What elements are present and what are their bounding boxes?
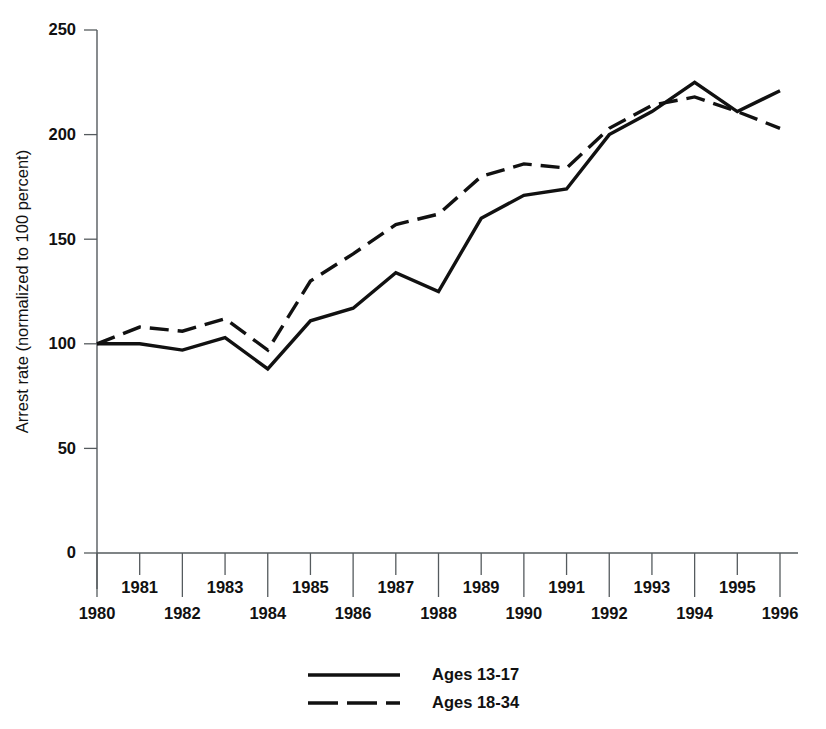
x-tick-label: 1986	[335, 604, 372, 622]
y-tick-label: 150	[48, 230, 76, 248]
y-tick-label: 250	[48, 20, 76, 38]
x-tick-label: 1991	[548, 578, 585, 596]
y-tick-label: 0	[67, 543, 76, 561]
x-tick-label: 1984	[249, 604, 287, 622]
x-tick-label: 1992	[591, 604, 628, 622]
chart-legend: Ages 13-17Ages 18-34	[308, 665, 520, 711]
series-line-1	[97, 82, 780, 369]
x-tick-label: 1994	[676, 604, 714, 622]
x-tick-label: 1990	[506, 604, 543, 622]
x-tick-label: 1985	[292, 578, 329, 596]
x-tick-label: 1996	[762, 604, 799, 622]
x-tick-label: 1982	[164, 604, 201, 622]
y-tick-label: 50	[58, 439, 76, 457]
y-tick-label: 200	[48, 125, 76, 143]
y-tick-label: 100	[48, 334, 76, 352]
x-tick-label: 1983	[207, 578, 244, 596]
x-tick-label: 1989	[463, 578, 500, 596]
x-tick-label: 1981	[121, 578, 158, 596]
line-chart-canvas: 050100150200250 198019811982198319841985…	[0, 0, 826, 729]
data-series-group	[97, 82, 780, 369]
x-tick-label: 1993	[634, 578, 671, 596]
x-tick-label: 1987	[377, 578, 414, 596]
legend-label-1: Ages 13-17	[432, 665, 519, 683]
x-tick-label: 1980	[79, 604, 116, 622]
series-line-2	[97, 97, 780, 350]
x-tick-label: 1995	[719, 578, 756, 596]
legend-label-2: Ages 18-34	[432, 693, 520, 711]
chart-figure: 050100150200250 198019811982198319841985…	[0, 0, 826, 729]
y-axis: 050100150200250	[48, 20, 97, 589]
y-axis-title: Arrest rate (normalized to 100 percent)	[13, 150, 31, 433]
x-tick-label: 1988	[420, 604, 457, 622]
x-axis: 1980198119821983198419851986198719881989…	[79, 553, 799, 622]
